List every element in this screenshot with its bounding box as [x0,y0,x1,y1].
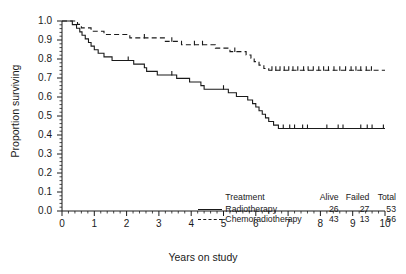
x-tick-label: 2 [115,218,139,229]
legend-table: Treatment Alive Failed Total Radiotherap… [198,192,396,225]
y-axis-title: Proportion surviving [9,51,21,171]
y-tick-label: 0.8 [24,53,52,64]
y-tick-label: 0.3 [24,148,52,159]
legend-header-alive: Alive [312,192,339,204]
legend-alive-radiotherapy: 26 [312,204,339,215]
legend-total-radiotherapy: 53 [369,204,396,215]
legend-total-chemoradiotherapy: 56 [369,214,396,225]
x-tick-label: 3 [147,218,171,229]
y-tick-label: 1.0 [24,15,52,26]
y-tick-label: 0.6 [24,91,52,102]
legend-header-row: Treatment Alive Failed Total [198,192,396,204]
legend-header-total: Total [369,192,396,204]
legend-header-treatment: Treatment [225,192,311,204]
survival-chart-figure: Proportion surviving Years on study 0123… [0,0,406,274]
legend-sample-chemoradiotherapy [198,214,225,225]
legend-sample-radiotherapy [198,204,225,215]
legend-header-spacer [198,192,225,204]
axes-group [57,21,385,216]
survival-curve-radiotherapy [62,21,385,129]
legend-row: Chemoradiotherapy 43 13 56 [198,214,396,225]
y-tick-label: 0.9 [24,34,52,45]
x-axis-title: Years on study [0,251,406,263]
solid-line-swatch [198,209,222,210]
survival-curve-chemoradiotherapy [62,21,385,70]
y-tick-label: 0.4 [24,129,52,140]
legend-failed-radiotherapy: 27 [339,204,370,215]
y-tick-label: 0.5 [24,110,52,121]
legend-header-failed: Failed [339,192,370,204]
legend-failed-chemoradiotherapy: 13 [339,214,370,225]
y-tick-label: 0.1 [24,186,52,197]
x-tick-label: 0 [50,218,74,229]
series-group [62,21,385,129]
y-tick-label: 0.7 [24,72,52,83]
legend-alive-chemoradiotherapy: 43 [312,214,339,225]
dashed-line-swatch [198,219,222,220]
legend-grid: Treatment Alive Failed Total Radiotherap… [198,192,396,225]
plot-area [0,0,406,274]
x-tick-label: 1 [82,218,106,229]
legend-row: Radiotherapy 26 27 53 [198,204,396,215]
y-tick-label: 0.0 [24,205,52,216]
y-tick-label: 0.2 [24,167,52,178]
legend-label-radiotherapy: Radiotherapy [225,204,311,215]
legend-label-chemoradiotherapy: Chemoradiotherapy [225,214,311,225]
